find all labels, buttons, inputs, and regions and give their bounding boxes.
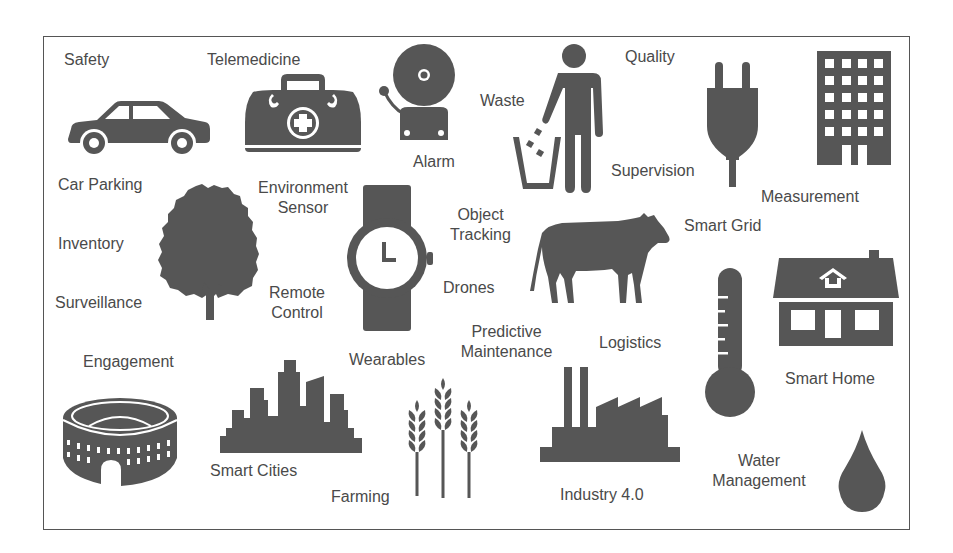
person-trash-icon — [513, 43, 605, 193]
label-surveillance: Surveillance — [55, 293, 142, 313]
tree-icon — [156, 182, 260, 322]
city-skyline-icon — [220, 358, 362, 453]
label-quality: Quality — [625, 47, 675, 67]
house-icon — [771, 250, 901, 346]
water-drop-icon — [837, 430, 887, 512]
wristwatch-icon — [347, 185, 433, 331]
label-industry: Industry 4.0 — [560, 485, 644, 505]
alarm-bell-icon — [378, 44, 458, 140]
label-engagement: Engagement — [83, 352, 174, 372]
label-smart-cities: Smart Cities — [210, 461, 297, 481]
label-telemedicine: Telemedicine — [207, 50, 300, 70]
label-smart-grid: Smart Grid — [684, 216, 761, 236]
colosseum-icon — [61, 396, 179, 488]
plug-icon — [705, 62, 760, 187]
wheat-icon — [405, 376, 485, 500]
medical-bag-icon — [243, 72, 363, 160]
label-smart-home: Smart Home — [785, 369, 875, 389]
thermometer-icon — [704, 268, 756, 418]
label-car-parking: Car Parking — [58, 175, 142, 195]
factory-icon — [540, 365, 680, 462]
office-building-icon — [817, 51, 891, 165]
cow-icon — [528, 213, 672, 305]
label-drones: Drones — [443, 278, 495, 298]
label-alarm: Alarm — [413, 152, 455, 172]
label-logistics: Logistics — [599, 333, 661, 353]
label-measurement: Measurement — [761, 187, 859, 207]
label-predictive-maintenance: Predictive Maintenance — [450, 322, 563, 362]
label-water-management: Water Management — [700, 451, 818, 491]
label-remote-control: Remote Control — [262, 283, 332, 323]
label-object-tracking: Object Tracking — [443, 205, 518, 245]
label-supervision: Supervision — [611, 161, 695, 181]
car-icon — [67, 99, 212, 157]
label-environment-sensor: Environment Sensor — [247, 178, 359, 218]
label-inventory: Inventory — [58, 234, 124, 254]
label-farming: Farming — [331, 487, 390, 507]
label-safety: Safety — [64, 50, 109, 70]
